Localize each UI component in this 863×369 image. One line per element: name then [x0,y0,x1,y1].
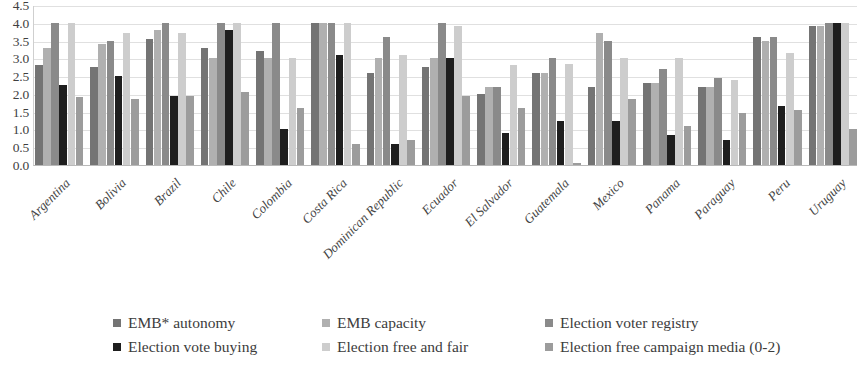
legend-item-election-voter-registry[interactable]: Election voter registry [545,315,699,331]
y-axis-tick-label: 3.5 [13,35,29,49]
bar[interactable] [225,30,233,165]
bar[interactable] [430,58,438,165]
bar[interactable] [604,41,612,165]
bar[interactable] [170,96,178,165]
bar[interactable] [762,41,770,165]
bar[interactable] [311,23,319,165]
bar[interactable] [841,23,849,165]
bar[interactable] [565,64,573,165]
bar[interactable] [233,23,241,165]
bar[interactable] [643,83,651,165]
bar[interactable] [123,33,131,165]
bar[interactable] [659,69,667,165]
bar[interactable] [217,23,225,165]
bar[interactable] [280,129,288,165]
bar[interactable] [256,51,264,165]
legend-item-election-free-and-fair[interactable]: Election free and fair [322,339,468,355]
bar[interactable] [684,126,692,165]
bar[interactable] [588,87,596,165]
bar[interactable] [620,58,628,165]
bar[interactable] [272,23,280,165]
bar[interactable] [446,58,454,165]
category-label: El Salvador [463,176,516,229]
bar[interactable] [731,80,739,165]
bar[interactable] [344,23,352,165]
bar[interactable] [264,58,272,165]
bar[interactable] [502,133,510,165]
bar[interactable] [383,37,391,165]
bar[interactable] [352,144,360,165]
bar[interactable] [510,65,518,165]
bar[interactable] [407,140,415,165]
bar[interactable] [186,96,194,165]
bar[interactable] [201,48,209,165]
bar-group [311,6,359,165]
bar[interactable] [596,33,604,165]
bar[interactable] [422,67,430,165]
bar[interactable] [391,144,399,165]
bar[interactable] [628,99,636,165]
bar[interactable] [825,23,833,165]
bar[interactable] [675,58,683,165]
bar[interactable] [770,37,778,165]
bar[interactable] [714,78,722,165]
bar[interactable] [98,44,106,165]
bar[interactable] [438,23,446,165]
bar[interactable] [698,87,706,165]
bar[interactable] [241,92,249,165]
bar[interactable] [209,58,217,165]
bar[interactable] [107,41,115,165]
bar[interactable] [493,87,501,165]
bar[interactable] [549,58,557,165]
bar[interactable] [462,96,470,165]
bar[interactable] [739,113,747,165]
bar[interactable] [753,37,761,165]
bar[interactable] [723,140,731,165]
bar[interactable] [336,55,344,165]
bar-group [256,6,304,165]
bar[interactable] [557,121,565,165]
legend-item-election-free-campaign-media[interactable]: Election free campaign media (0-2) [545,339,780,355]
bar[interactable] [454,26,462,165]
bar[interactable] [178,33,186,165]
bar[interactable] [541,73,549,165]
bar[interactable] [651,83,659,165]
bar[interactable] [146,39,154,165]
bar[interactable] [43,48,51,165]
bar[interactable] [532,73,540,165]
bar[interactable] [328,23,336,165]
bar[interactable] [706,87,714,165]
bar[interactable] [367,73,375,165]
legend-item-emb-autonomy[interactable]: EMB* autonomy [113,315,235,331]
bar[interactable] [35,65,43,165]
bar[interactable] [786,53,794,165]
legend-item-election-vote-buying[interactable]: Election vote buying [113,339,257,355]
bar[interactable] [131,99,139,165]
bar[interactable] [833,23,841,165]
legend-item-emb-capacity[interactable]: EMB capacity [322,315,426,331]
bar[interactable] [399,55,407,165]
bar[interactable] [115,76,123,165]
bar[interactable] [162,23,170,165]
bar[interactable] [518,108,526,165]
bar[interactable] [154,30,162,165]
bar[interactable] [90,67,98,165]
bar[interactable] [297,108,305,165]
bar[interactable] [289,58,297,165]
bar[interactable] [778,106,786,165]
bar[interactable] [817,26,825,165]
bar[interactable] [809,26,817,165]
bar[interactable] [485,87,493,165]
bar[interactable] [76,97,84,165]
bar[interactable] [51,23,59,165]
bar[interactable] [794,110,802,165]
bar[interactable] [319,23,327,165]
bar[interactable] [612,121,620,165]
bar[interactable] [68,23,76,165]
bar[interactable] [667,135,675,165]
bar[interactable] [573,163,581,165]
bar[interactable] [849,129,857,165]
bar[interactable] [477,94,485,165]
bar[interactable] [59,85,67,165]
bar[interactable] [375,58,383,165]
